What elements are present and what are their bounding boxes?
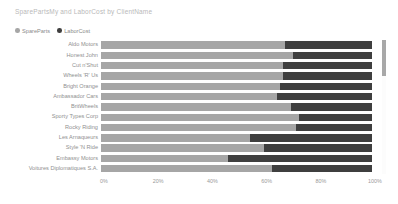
- legend-label: LaborCost: [64, 28, 90, 34]
- bar-track: [101, 144, 372, 151]
- bar-row: Style 'N Ride: [0, 143, 398, 153]
- vertical-scrollbar[interactable]: [382, 40, 386, 174]
- bar-track: [101, 93, 372, 100]
- x-axis-tick-label: 40%: [207, 178, 218, 184]
- bar-track: [101, 124, 372, 131]
- legend-dot-icon: [57, 28, 62, 33]
- bar-segment-spareparts[interactable]: [101, 165, 272, 172]
- x-axis-tick-label: 100%: [368, 178, 382, 184]
- category-label: Voitures Diplomatiques S.A.: [0, 166, 101, 172]
- bar-segment-spareparts[interactable]: [101, 124, 296, 131]
- bar-segment-laborcost[interactable]: [264, 144, 372, 151]
- bar-track: [101, 72, 372, 79]
- category-label: Aldo Motors: [0, 42, 101, 48]
- bar-segment-spareparts[interactable]: [101, 62, 283, 69]
- bar-rows: Aldo MotorsHonest JohnCut n'ShutWheels '…: [0, 40, 398, 174]
- plot-area: Aldo MotorsHonest JohnCut n'ShutWheels '…: [0, 40, 398, 174]
- category-label: Cut n'Shut: [0, 63, 101, 69]
- bar-row: Bright Orange: [0, 81, 398, 91]
- category-label: Honest John: [0, 53, 101, 59]
- bar-track: [101, 62, 372, 69]
- x-axis-tick-label: 60%: [261, 178, 272, 184]
- bar-track: [101, 52, 372, 59]
- bar-track: [101, 134, 372, 141]
- bar-segment-spareparts[interactable]: [101, 134, 250, 141]
- bar-row: Honest John: [0, 50, 398, 60]
- bar-row: Aldo Motors: [0, 40, 398, 50]
- bar-row: Cut n'Shut: [0, 61, 398, 71]
- bar-track: [101, 83, 372, 90]
- chart-title: SparePartsMy and LaborCost by ClientName: [15, 8, 152, 15]
- legend-dot-icon: [15, 28, 20, 33]
- category-label: Les Arnaqueurs: [0, 135, 101, 141]
- bar-track: [101, 41, 372, 48]
- category-label: BritWheels: [0, 104, 101, 110]
- bar-segment-laborcost[interactable]: [293, 52, 372, 59]
- bar-segment-spareparts[interactable]: [101, 155, 228, 162]
- category-label: Embassy Motors: [0, 156, 101, 162]
- bar-segment-laborcost[interactable]: [296, 124, 372, 131]
- bar-track: [101, 165, 372, 172]
- bar-segment-spareparts[interactable]: [101, 41, 285, 48]
- bar-row: BritWheels: [0, 102, 398, 112]
- bar-track: [101, 103, 372, 110]
- x-axis: 0%20%40%60%80%100%: [104, 178, 375, 190]
- bar-track: [101, 114, 372, 121]
- bar-row: Embassy Motors: [0, 153, 398, 163]
- category-label: Bright Orange: [0, 84, 101, 90]
- bar-segment-spareparts[interactable]: [101, 114, 299, 121]
- legend-label: SpareParts: [22, 28, 50, 34]
- category-label: Ambassador Cars: [0, 94, 101, 100]
- bar-segment-spareparts[interactable]: [101, 52, 293, 59]
- category-label: Style 'N Ride: [0, 145, 101, 151]
- x-axis-tick-label: 20%: [153, 178, 164, 184]
- bar-row: Rocky Riding: [0, 122, 398, 132]
- x-axis-tick-label: 80%: [315, 178, 326, 184]
- bar-segment-laborcost[interactable]: [272, 165, 372, 172]
- chart-legend: SpareParts LaborCost: [15, 26, 90, 35]
- bar-row: Sporty Types Corp: [0, 112, 398, 122]
- bar-segment-laborcost[interactable]: [283, 62, 372, 69]
- bar-segment-laborcost[interactable]: [250, 134, 372, 141]
- bar-segment-spareparts[interactable]: [101, 72, 283, 79]
- bar-segment-spareparts[interactable]: [101, 103, 291, 110]
- bar-track: [101, 155, 372, 162]
- bar-row: Voitures Diplomatiques S.A.: [0, 164, 398, 174]
- bar-segment-laborcost[interactable]: [291, 103, 372, 110]
- bar-segment-laborcost[interactable]: [299, 114, 372, 121]
- bar-row: Ambassador Cars: [0, 91, 398, 101]
- x-axis-tick-label: 0%: [100, 178, 108, 184]
- bar-segment-laborcost[interactable]: [280, 83, 372, 90]
- scrollbar-thumb[interactable]: [382, 40, 386, 76]
- category-label: Rocky Riding: [0, 125, 101, 131]
- bar-row: Wheels 'R' Us: [0, 71, 398, 81]
- category-label: Wheels 'R' Us: [0, 73, 101, 79]
- bar-segment-spareparts[interactable]: [101, 144, 264, 151]
- legend-item-spareparts[interactable]: SpareParts: [15, 28, 50, 34]
- bar-segment-laborcost[interactable]: [283, 72, 372, 79]
- bar-segment-spareparts[interactable]: [101, 83, 280, 90]
- stacked-bar-chart-card: SparePartsMy and LaborCost by ClientName…: [0, 0, 398, 204]
- legend-item-laborcost[interactable]: LaborCost: [57, 28, 90, 34]
- bar-segment-laborcost[interactable]: [228, 155, 372, 162]
- category-label: Sporty Types Corp: [0, 114, 101, 120]
- bar-row: Les Arnaqueurs: [0, 133, 398, 143]
- bar-segment-laborcost[interactable]: [285, 41, 372, 48]
- bar-segment-laborcost[interactable]: [277, 93, 372, 100]
- bar-segment-spareparts[interactable]: [101, 93, 277, 100]
